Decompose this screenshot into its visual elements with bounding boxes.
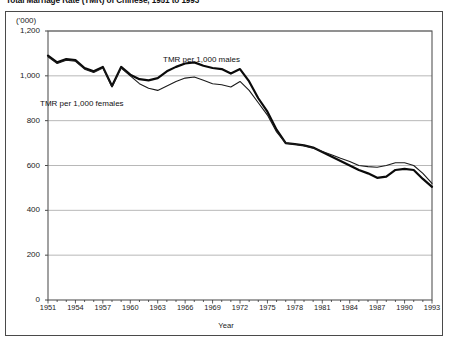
y-axis-tick-label: 200: [10, 250, 40, 259]
series-label-females: TMR per 1,000 females: [40, 99, 124, 108]
x-axis-tick-label: 1957: [88, 303, 118, 312]
x-axis-tick-label: 1987: [362, 303, 392, 312]
x-axis-tick-label: 1969: [198, 303, 228, 312]
x-axis-tick-label: 1990: [390, 303, 420, 312]
gridlines: [45, 31, 432, 300]
chart-figure: Total Marriage Rate (TMR) of Chinese, 19…: [0, 0, 452, 345]
series-label-males: TMR per 1,000 males: [163, 55, 240, 64]
x-axis-tick-label: 1963: [143, 303, 173, 312]
x-axis-tick-label: 1993: [417, 303, 447, 312]
y-axis-tick-label: 1,000: [10, 71, 40, 80]
data-series: [48, 56, 432, 187]
y-axis-tick-label: 800: [10, 116, 40, 125]
x-axis-tick-label: 1981: [307, 303, 337, 312]
y-axis-tick-label: 1,200: [10, 26, 40, 35]
x-axis-title: Year: [0, 321, 452, 330]
y-axis-tick-label: 600: [10, 161, 40, 170]
x-axis-tick-label: 1978: [280, 303, 310, 312]
plot-canvas: [0, 0, 452, 345]
x-axis-tick-label: 1975: [252, 303, 282, 312]
x-axis-tick-label: 1984: [335, 303, 365, 312]
x-axis-tick-label: 1960: [115, 303, 145, 312]
x-axis-tick-label: 1954: [60, 303, 90, 312]
x-axis-tick-label: 1972: [225, 303, 255, 312]
x-axis-tick-label: 1951: [33, 303, 63, 312]
x-axis-tick-label: 1966: [170, 303, 200, 312]
y-axis-tick-label: 400: [10, 205, 40, 214]
